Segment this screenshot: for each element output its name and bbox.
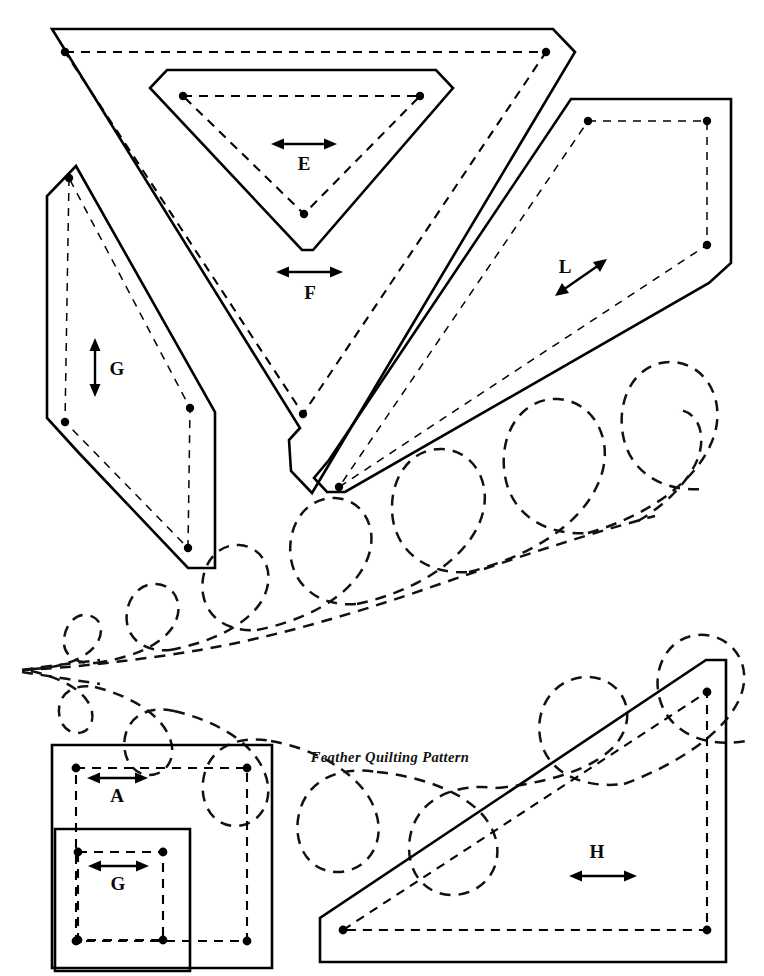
piece-K-corner-dot	[61, 48, 69, 56]
piece-H-corner-dot	[339, 926, 348, 935]
piece-F-corner-dot	[159, 848, 168, 857]
piece-F-corner-dot	[74, 848, 83, 857]
piece-A-label: A	[110, 785, 124, 806]
piece-E-corner-dot	[300, 210, 308, 218]
piece-E-corner-dot	[179, 92, 187, 100]
piece-H-corner-dot	[703, 688, 712, 697]
piece-A-corner-dot	[72, 764, 81, 773]
piece-L-corner-dot	[335, 483, 343, 491]
piece-L-corner-dot	[703, 241, 711, 249]
piece-E-label: E	[298, 153, 311, 174]
piece-G-corner-dot	[186, 404, 194, 412]
pattern-sheet-page: F E	[0, 0, 764, 976]
piece-E-corner-dot	[416, 92, 424, 100]
piece-K-corner-dot	[542, 48, 550, 56]
piece-H-label: H	[590, 841, 605, 862]
piece-F-corner-dot	[74, 936, 83, 945]
piece-A-corner-dot	[243, 764, 252, 773]
piece-K-label: F	[304, 282, 316, 303]
piece-F-label: G	[111, 873, 126, 894]
piece-A-corner-dot	[243, 937, 252, 946]
feather-pattern-caption: Feather Quilting Pattern	[310, 749, 470, 765]
piece-G-label: G	[110, 358, 125, 379]
piece-G-corner-dot	[61, 418, 69, 426]
piece-L-corner-dot	[703, 117, 711, 125]
piece-G-corner-dot	[65, 174, 73, 182]
piece-H-corner-dot	[703, 926, 712, 935]
piece-K-corner-dot	[299, 410, 307, 418]
piece-F-corner-dot	[159, 936, 168, 945]
piece-L-corner-dot	[584, 117, 592, 125]
pattern-sheet-canvas: F E	[0, 0, 764, 976]
piece-L-label: L	[559, 256, 572, 277]
piece-G-corner-dot	[184, 544, 192, 552]
